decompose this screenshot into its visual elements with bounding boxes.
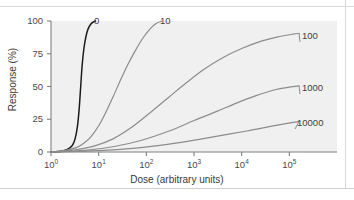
x-tick-label-1e3: 103 <box>182 160 206 170</box>
curve-0 <box>51 21 96 152</box>
y-axis-title: Response (%) <box>7 20 18 140</box>
curve-label-10000: 10000 <box>297 118 323 128</box>
x-axis-title: Dose (arbitrary units) <box>0 174 354 185</box>
y-tick-label-0: 0 <box>0 147 43 157</box>
y-tick-marks <box>47 21 51 152</box>
curve-100 <box>51 33 299 152</box>
curve-label-10: 10 <box>160 16 171 26</box>
x-tick-label-1e2: 102 <box>134 160 158 170</box>
curve-10 <box>51 21 162 152</box>
x-tick-label-1e4: 104 <box>230 160 254 170</box>
dose-response-chart: 0255075100 100101102103104105 0101001000… <box>0 0 354 200</box>
x-tick-label-1e5: 105 <box>277 160 301 170</box>
x-tick-marks <box>51 152 289 156</box>
curve-label-1000: 1000 <box>302 83 323 93</box>
x-tick-label-1e1: 101 <box>87 160 111 170</box>
chart-figure: 0255075100 100101102103104105 0101001000… <box>0 0 354 200</box>
chart-canvas <box>0 0 354 200</box>
leader-line-100 <box>299 33 300 42</box>
curve-1000 <box>51 86 299 152</box>
curve-label-leader-lines <box>295 33 300 129</box>
curve-label-0: 0 <box>94 16 99 26</box>
leader-line-1000 <box>299 86 300 94</box>
curve-label-100: 100 <box>302 31 318 41</box>
x-tick-label-1e0: 100 <box>39 160 63 170</box>
curves-group <box>51 21 299 152</box>
